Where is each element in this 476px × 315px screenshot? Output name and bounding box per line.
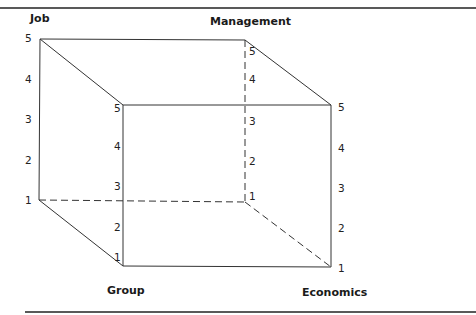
job-tick: 5 <box>25 32 32 44</box>
management-tick: 5 <box>249 45 256 57</box>
group-tick: 4 <box>114 140 121 152</box>
connector-top-right <box>245 40 331 105</box>
axis-label-management: Management <box>210 15 291 28</box>
economics-tick: 1 <box>338 262 345 274</box>
group-tick: 2 <box>114 221 121 233</box>
axis-label-economics: Economics <box>302 286 368 299</box>
job-tick: 4 <box>25 73 32 85</box>
job-tick: 1 <box>25 194 32 206</box>
group-tick: 5 <box>114 102 121 114</box>
connector-bottom-right-hidden <box>245 202 331 267</box>
management-tick: 3 <box>249 115 256 127</box>
axis-label-job: Job <box>29 12 50 25</box>
group-tick: 1 <box>114 251 121 263</box>
front-bottom-edge <box>123 266 331 267</box>
back-left-edge <box>39 39 40 200</box>
group-tick: 3 <box>114 180 121 192</box>
economics-tick: 4 <box>338 142 345 154</box>
connector-top-left <box>40 39 123 105</box>
axis-label-group: Group <box>107 284 145 297</box>
back-bottom-hidden-edge <box>39 200 245 202</box>
job-tick: 2 <box>25 154 32 166</box>
back-top-edge <box>40 39 245 40</box>
economics-tick: 2 <box>338 222 345 234</box>
management-tick: 4 <box>249 73 256 85</box>
cube-diagram: Job Management Group Economics 5 4 3 2 1… <box>0 0 476 315</box>
management-tick: 1 <box>249 190 256 202</box>
job-tick: 3 <box>25 113 32 125</box>
connector-bottom-left <box>39 200 123 266</box>
economics-tick: 3 <box>338 182 345 194</box>
management-tick: 2 <box>249 155 256 167</box>
economics-tick: 5 <box>338 101 345 113</box>
